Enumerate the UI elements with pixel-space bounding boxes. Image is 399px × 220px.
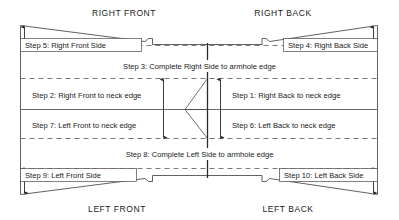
step-6-label: Step 6: Left Back to neck edge [232,121,335,130]
step-3-group: Step 3: Complete Right Side to armhole e… [108,60,291,72]
title-right-front: RIGHT FRONT [92,8,156,18]
step-8-label: Step 8: Complete Left Side to armhole ed… [126,150,274,159]
step-4-label: Step 4: Right Back Side [288,41,368,50]
title-left-front: LEFT FRONT [88,204,146,214]
step-2-group: Step 2: Right Front to neck edge [28,89,158,101]
step-6-group: Step 6: Left Back to neck edge [228,119,352,131]
title-left-back: LEFT BACK [262,204,313,214]
step-7-group: Step 7: Left Front to neck edge [28,119,156,131]
step-1-label: Step 1: Right Back to neck edge [232,91,341,100]
step-9-group: Step 9: Left Front Side [21,169,137,182]
step-10-group: Step 10: Left Back Side [280,169,378,182]
step-2-label: Step 2: Right Front to neck edge [32,91,141,100]
step-1-group: Step 1: Right Back to neck edge [228,89,356,101]
step-10-label: Step 10: Left Back Side [284,171,363,180]
knitting-pattern-diagram: RIGHT FRONT RIGHT BACK LEFT FRONT LEFT B… [0,0,399,220]
step-5-label: Step 5: Right Front Side [25,41,106,50]
step-3-label: Step 3: Complete Right Side to armhole e… [123,62,276,71]
step-8-group: Step 8: Complete Left Side to armhole ed… [110,148,290,160]
title-right-back: RIGHT BACK [254,8,311,18]
center-chevron-marker [185,79,208,139]
diagram-canvas: RIGHT FRONT RIGHT BACK LEFT FRONT LEFT B… [0,0,399,220]
step-7-label: Step 7: Left Front to neck edge [32,121,136,130]
step-5-group: Step 5: Right Front Side [21,39,142,52]
step-4-group: Step 4: Right Back Side [284,39,378,52]
step-9-label: Step 9: Left Front Side [25,171,101,180]
